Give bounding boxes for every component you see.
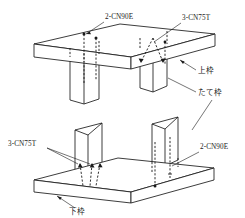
callout-bottom-right-label: 2-CN90E [200, 143, 229, 151]
diagram-canvas: 2-CN90E 3-CN75T 上枠 たて枠 3-CN75T 2-C [0, 0, 245, 218]
callout-lower-plate: 下枠 [57, 196, 85, 216]
nailing-detail-figure: 2-CN90E 3-CN75T 上枠 たて枠 3-CN75T 2-C [0, 0, 245, 218]
upper-assembly [34, 24, 215, 104]
callout-bottom-left-label: 3-CN75T [8, 140, 37, 148]
callout-top-left-label: 2-CN90E [105, 13, 134, 21]
callout-upper-plate: 上枠 [180, 60, 214, 75]
lower-plate [34, 158, 214, 203]
upper-plate [34, 24, 215, 69]
lower-plate-label: 下枠 [69, 206, 85, 216]
callout-bottom-right: 2-CN90E [172, 143, 229, 166]
callout-top-right-label: 3-CN75T [182, 14, 211, 22]
lower-assembly [34, 117, 214, 203]
stud-label: たて枠 [198, 87, 222, 97]
upper-plate-label: 上枠 [198, 65, 214, 75]
lower-stud-right [152, 117, 178, 166]
